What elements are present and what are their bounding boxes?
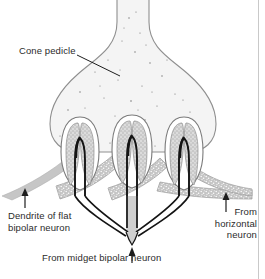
label-horizontal-line1: From bbox=[234, 206, 257, 217]
figure-right-border bbox=[258, 0, 259, 279]
midget-bipolar-dendrites bbox=[75, 196, 189, 245]
label-horizontal-neuron: Fromhorizontalneuron bbox=[195, 206, 257, 241]
label-flat-bipolar-dendrite: Dendrite of flatbipolar neuron bbox=[8, 210, 71, 233]
label-horizontal-line2: horizontal bbox=[215, 218, 257, 229]
label-horizontal-line3: neuron bbox=[227, 229, 257, 240]
label-flat-bipolar-line1: Dendrite of flat bbox=[8, 210, 71, 221]
label-cone-pedicle: Cone pedicle bbox=[19, 45, 76, 57]
label-flat-bipolar-line2: bipolar neuron bbox=[8, 222, 70, 233]
label-midget-bipolar-neuron: From midget bipolar neuron bbox=[42, 252, 161, 264]
